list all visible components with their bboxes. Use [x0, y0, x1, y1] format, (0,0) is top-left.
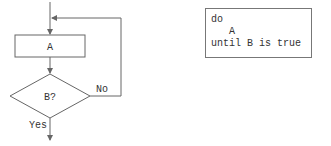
pseudocode-line-body: A — [211, 26, 311, 38]
pseudocode-box: do A until B is true — [205, 8, 312, 58]
process-label: A — [47, 42, 53, 53]
pseudocode-line-until: until B is true — [211, 38, 311, 50]
no-label: No — [96, 84, 108, 95]
decision-label: B? — [44, 92, 56, 103]
pseudocode-line-do: do — [211, 14, 311, 26]
yes-label: Yes — [29, 120, 47, 131]
